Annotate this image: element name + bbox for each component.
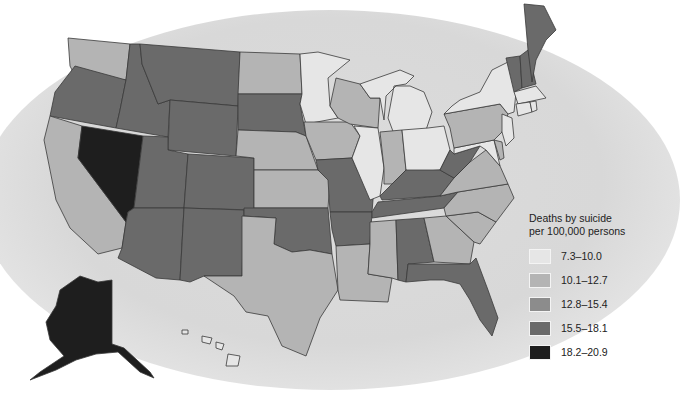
legend-swatch bbox=[529, 249, 551, 264]
legend-label: 15.5–18.1 bbox=[561, 322, 608, 334]
state-NJ bbox=[502, 114, 514, 146]
legend-label: 12.8–15.4 bbox=[561, 298, 608, 310]
legend-swatch bbox=[529, 345, 551, 360]
legend-label: 18.2–20.9 bbox=[561, 346, 608, 358]
legend-label: 7.3–10.0 bbox=[561, 250, 602, 262]
state-KS bbox=[254, 170, 330, 208]
state-AK bbox=[30, 276, 154, 380]
state-FL bbox=[406, 258, 498, 336]
legend-item: 15.5–18.1 bbox=[529, 316, 653, 340]
state-ND bbox=[238, 52, 302, 94]
legend-item: 7.3–10.0 bbox=[529, 244, 653, 268]
legend-title-line1: Deaths by suicide bbox=[529, 212, 653, 225]
state-AR bbox=[330, 212, 372, 246]
legend-item: 10.1–12.7 bbox=[529, 268, 653, 292]
state-SD bbox=[238, 94, 306, 136]
map-legend: Deaths by suicide per 100,000 persons 7.… bbox=[529, 212, 653, 364]
state-AZ bbox=[118, 208, 184, 280]
legend-label: 10.1–12.7 bbox=[561, 274, 608, 286]
legend-title: Deaths by suicide per 100,000 persons bbox=[529, 212, 653, 238]
state-CT bbox=[516, 102, 532, 116]
state-MS bbox=[368, 220, 398, 280]
state-NY bbox=[444, 62, 516, 114]
legend-swatch bbox=[529, 297, 551, 312]
legend-item: 12.8–15.4 bbox=[529, 292, 653, 316]
state-NM bbox=[180, 208, 244, 282]
legend-item: 18.2–20.9 bbox=[529, 340, 653, 364]
state-MT bbox=[140, 44, 240, 106]
state-HI bbox=[182, 330, 240, 366]
state-CO bbox=[184, 154, 254, 210]
legend-title-line2: per 100,000 persons bbox=[529, 225, 653, 238]
legend-swatch bbox=[529, 321, 551, 336]
legend-swatch bbox=[529, 273, 551, 288]
state-WY bbox=[168, 100, 238, 156]
